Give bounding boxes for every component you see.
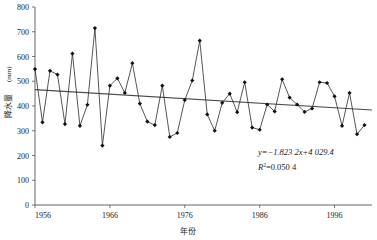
data-point-marker [205, 112, 209, 116]
y-tick-label: 700 [17, 28, 29, 37]
data-point-marker [258, 128, 262, 132]
data-point-marker [325, 81, 329, 85]
data-point-marker [168, 135, 172, 139]
data-point-marker [85, 103, 89, 107]
x-tick-label: 1986 [252, 211, 268, 220]
y-tick-label: 800 [17, 3, 29, 12]
y-axis-title: 降水量 (mm) [3, 66, 13, 118]
x-tick-label: 1996 [327, 211, 343, 220]
y-tick-label: 0 [25, 201, 29, 210]
data-point-marker [145, 119, 149, 123]
trend-line [35, 90, 372, 110]
data-point-marker [78, 124, 82, 128]
y-tick-label: 200 [17, 152, 29, 161]
data-point-marker [243, 80, 247, 84]
y-tick-label: 100 [17, 176, 29, 185]
chart-canvas: 降水量 (mm) 0100200300400500600700800 19561… [0, 0, 377, 240]
regression-equation: y=−1.823 2x+4 029.4 [257, 147, 335, 157]
x-tick-label: 1966 [102, 211, 118, 220]
data-point-marker [63, 122, 67, 126]
data-point-marker [250, 125, 254, 129]
x-axis-title: 年份 [180, 226, 196, 236]
data-point-marker [138, 101, 142, 105]
data-point-marker [175, 131, 179, 135]
x-tick-label: 1956 [35, 211, 51, 220]
y-tick-label: 300 [17, 127, 29, 136]
data-point-marker [235, 110, 239, 114]
y-axis-title-text: 降水量 [3, 94, 13, 118]
data-point-marker [55, 72, 59, 76]
data-point-marker [160, 84, 164, 88]
y-axis-ticks: 0100200300400500600700800 [17, 3, 35, 210]
x-axis-ticks: 19561966197619861996 [35, 205, 343, 220]
data-point-marker [48, 69, 52, 73]
y-axis-title-unit: (mm) [5, 66, 13, 82]
data-point-marker [130, 61, 134, 65]
data-point-marker [40, 120, 44, 124]
data-point-marker [310, 106, 314, 110]
data-point-marker [70, 51, 74, 55]
x-tick-label: 1976 [177, 211, 193, 220]
data-point-marker [213, 129, 217, 133]
data-point-marker [198, 39, 202, 43]
data-point-marker [93, 26, 97, 30]
precipitation-series-line [35, 28, 365, 146]
data-point-marker [280, 77, 284, 81]
data-point-marker [347, 91, 351, 95]
r-squared-value: =0.050 4 [266, 162, 297, 172]
y-tick-label: 400 [17, 102, 29, 111]
data-point-marker [190, 78, 194, 82]
precipitation-trend-chart: 降水量 (mm) 0100200300400500600700800 19561… [0, 0, 377, 240]
data-point-marker [33, 67, 37, 71]
data-point-marker [332, 94, 336, 98]
regression-annotation: y=−1.823 2x+4 029.4 R2=0.050 4 [257, 147, 335, 172]
data-point-marker [100, 144, 104, 148]
data-point-marker [123, 91, 127, 95]
data-point-marker [317, 80, 321, 84]
data-point-marker [153, 123, 157, 127]
axis-lines [35, 7, 372, 205]
y-tick-label: 600 [17, 53, 29, 62]
r-squared-label: R2=0.050 4 [257, 162, 297, 172]
data-point-marker [340, 124, 344, 128]
y-tick-label: 500 [17, 77, 29, 86]
